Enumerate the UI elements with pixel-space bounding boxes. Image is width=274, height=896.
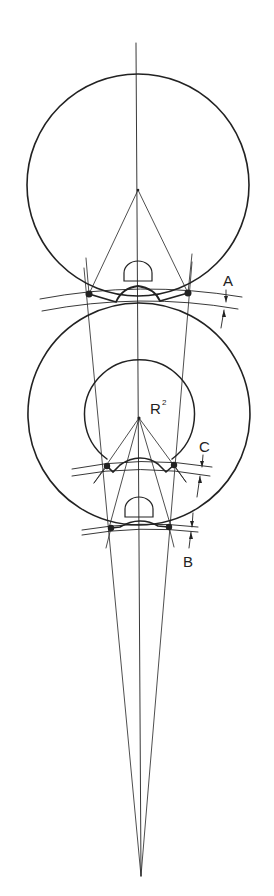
contact-dot-c-left [104, 463, 110, 469]
arc-b-inner [82, 529, 198, 535]
pin-upper [124, 261, 152, 281]
radial-line-r2-2 [109, 418, 139, 528]
radial-line-upper-right [138, 190, 188, 293]
r2-center-point [137, 416, 140, 419]
arrow-a-top-icon [224, 296, 228, 302]
contact-dot-a-right [185, 290, 192, 297]
lower-inner-circle [85, 360, 195, 459]
label-r: R [150, 400, 161, 417]
arc-c-outer [72, 461, 212, 469]
radial-line-upper-left [89, 190, 138, 294]
upper-center-point [137, 189, 140, 192]
label-a: A [223, 272, 233, 289]
arrow-c-bottom-icon [198, 476, 202, 483]
contact-dot-c-right [171, 462, 177, 468]
label-r-superscript: 2 [162, 398, 167, 407]
tick-a-left [86, 258, 89, 294]
contact-dot-b-right [166, 524, 172, 530]
arrow-a-bottom-icon [222, 310, 226, 317]
geometry-diagram: A C B R 2 [0, 0, 274, 896]
label-c: C [199, 438, 210, 455]
centerline [136, 43, 141, 876]
arrow-b-bottom-icon [189, 532, 193, 539]
converging-line-left [84, 268, 141, 876]
upper-circle [27, 74, 249, 296]
contact-dot-b-left [108, 525, 114, 531]
tooth-profile-a [89, 286, 188, 302]
contact-dot-a-left [86, 291, 93, 298]
label-b: B [183, 553, 193, 570]
arc-c-inner [72, 470, 210, 477]
tick-c-left [94, 466, 107, 483]
arc-a-outer [40, 289, 242, 299]
